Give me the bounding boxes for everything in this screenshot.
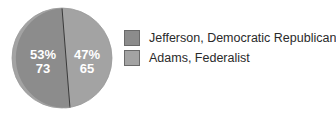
- legend-swatch-jefferson: [124, 30, 140, 46]
- legend-label-jefferson: Jefferson, Democratic Republican: [149, 31, 336, 45]
- jefferson-percent: 53%: [28, 48, 58, 62]
- legend: Jefferson, Democratic Republican Adams, …: [124, 28, 336, 68]
- legend-item-adams: Adams, Federalist: [124, 48, 336, 68]
- adams-percent: 47%: [72, 48, 102, 62]
- adams-value: 65: [72, 62, 102, 76]
- legend-item-jefferson: Jefferson, Democratic Republican: [124, 28, 336, 48]
- legend-swatch-adams: [124, 50, 140, 66]
- slice-label-jefferson: 53% 73: [28, 48, 58, 76]
- slice-label-adams: 47% 65: [72, 48, 102, 76]
- pie-chart: [0, 0, 120, 114]
- jefferson-value: 73: [28, 62, 58, 76]
- legend-label-adams: Adams, Federalist: [149, 51, 250, 65]
